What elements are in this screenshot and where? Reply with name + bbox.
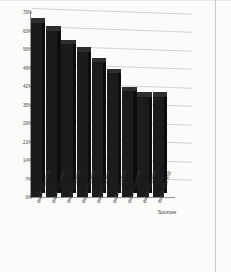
x-axis-title: Sources: [158, 209, 176, 215]
bar-front-face: [137, 97, 148, 197]
y-tick-mark: [26, 30, 29, 31]
page-right-margin-rule: [215, 0, 216, 272]
bar-front-face: [153, 97, 164, 197]
y-tick-mark: [26, 123, 29, 124]
y-tick-mark: [26, 141, 29, 142]
y-tick-mark: [26, 67, 29, 68]
gridline: [32, 8, 192, 15]
bar: [153, 97, 164, 197]
bar-side-face: [57, 26, 60, 193]
bar-front-face: [31, 23, 42, 197]
y-tick-mark: [26, 49, 29, 50]
bar-chart: 0%7%14%21%28%35%42%49%56%63%70% BMCE 200…: [0, 0, 215, 272]
y-tick-mark: [26, 197, 29, 198]
y-tick-mark: [26, 86, 29, 87]
y-tick-mark: [26, 178, 29, 179]
bar: [137, 97, 148, 197]
bar: [31, 23, 42, 197]
y-tick-mark: [26, 160, 29, 161]
bar-side-face: [42, 18, 45, 192]
y-tick-mark: [26, 12, 29, 13]
y-tick-mark: [26, 104, 29, 105]
